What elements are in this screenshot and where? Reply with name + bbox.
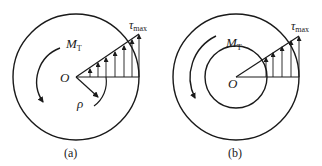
shear-stress-distribution <box>76 34 139 77</box>
torsion-shear-stress-diagram: O MT τmax ρ (a) O MT τmax (b) <box>0 0 322 166</box>
center-label-a: O <box>60 70 70 85</box>
radius-arrow-icon <box>76 77 98 97</box>
shear-stress-distribution <box>236 36 299 77</box>
panel-b-hollow-shaft: O MT τmax (b) <box>173 14 309 160</box>
radius-arc <box>94 77 106 106</box>
torque-label-b: MT <box>225 35 242 52</box>
rho-label: ρ <box>76 96 83 111</box>
torque-arrow-icon <box>37 48 60 102</box>
tau-max-label-a: τmax <box>129 18 147 33</box>
caption-b: (b) <box>228 146 242 160</box>
torque-arrow-icon <box>190 36 216 98</box>
caption-a: (a) <box>64 146 77 160</box>
torque-label-a: MT <box>65 36 82 53</box>
panel-a-solid-shaft: O MT τmax ρ (a) <box>13 14 147 160</box>
tau-max-label-b: τmax <box>291 19 309 34</box>
center-label-b: O <box>228 76 238 91</box>
